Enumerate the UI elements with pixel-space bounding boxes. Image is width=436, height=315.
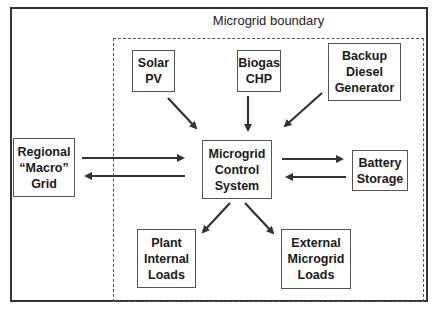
node-plant-internal-loads: Plant Internal Loads	[137, 229, 196, 288]
arrow-solar-to-control	[168, 98, 196, 128]
node-regional-macro-grid: Regional “Macro” Grid	[13, 138, 75, 197]
node-biogas-chp: Biogas CHP	[237, 50, 281, 92]
arrow-control-to-external	[245, 203, 273, 233]
node-battery-storage: Battery Storage	[352, 150, 408, 191]
node-microgrid-control-system: Microgrid Control System	[202, 140, 272, 199]
arrow-control-to-plant	[203, 203, 230, 232]
node-external-microgrid-loads: External Microgrid Loads	[281, 229, 351, 289]
node-solar-pv: Solar PV	[132, 50, 175, 92]
node-backup-diesel-generator: Backup Diesel Generator	[328, 43, 401, 101]
arrow-diesel-to-control	[285, 93, 322, 126]
